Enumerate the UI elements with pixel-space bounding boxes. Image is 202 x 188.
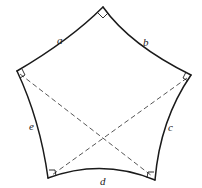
label-side-b: b — [143, 36, 149, 48]
label-side-e: e — [29, 120, 34, 132]
label-side-a: a — [57, 34, 63, 46]
diagonal-left-to-bottom-right — [20, 74, 152, 176]
label-side-d: d — [100, 175, 106, 187]
hyperbolic-pentagon-diagram: a b c d e — [0, 0, 202, 188]
right-angle-mark-left — [20, 69, 25, 78]
diagonal-right-to-bottom-left — [52, 78, 187, 175]
label-side-c: c — [168, 121, 173, 133]
right-angle-mark-top — [98, 13, 108, 18]
side-c — [155, 75, 191, 180]
